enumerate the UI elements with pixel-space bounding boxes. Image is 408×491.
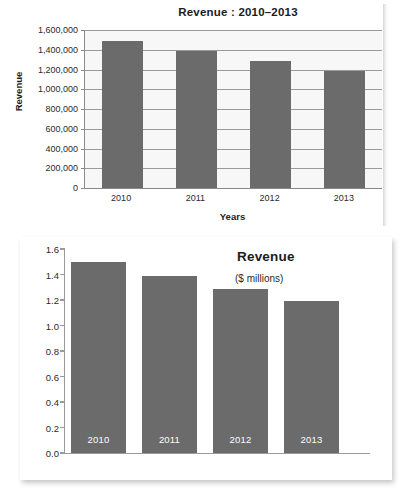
chart-bottom: Revenue ($ millions) 0.00.20.40.60.81.01…	[20, 237, 392, 480]
y-tick-label: 1.0	[46, 320, 59, 331]
y-tick-mark	[81, 129, 85, 130]
y-tick-label: 1.4	[46, 269, 59, 280]
y-tick-label: 1,000,000	[38, 84, 78, 94]
bar	[250, 61, 291, 188]
y-tick-mark	[60, 299, 65, 301]
y-tick-mark	[60, 325, 65, 327]
y-tick-label: 1.2	[46, 295, 59, 306]
y-tick-mark	[81, 70, 85, 71]
y-tick-label: 1,400,000	[38, 45, 78, 55]
bar: 2010	[71, 262, 126, 453]
figure-page: Revenue : 2010–2013 Revenue 0200,000400,…	[0, 0, 408, 491]
y-tick-label: 0.4	[46, 397, 59, 408]
bar: 2013	[284, 301, 339, 453]
y-tick-mark	[81, 168, 85, 169]
page-edge-shadow	[383, 4, 388, 226]
y-tick-mark	[60, 452, 65, 454]
x-tick-label: 2013	[334, 193, 354, 203]
y-tick-mark	[60, 427, 65, 429]
chart-top-title: Revenue : 2010–2013	[138, 6, 338, 18]
y-tick-label: 800,000	[45, 104, 78, 114]
bar: 2011	[142, 276, 197, 453]
bar-value-label: 2011	[159, 434, 180, 445]
gridline	[85, 30, 382, 31]
bar	[102, 41, 143, 188]
y-tick-mark	[81, 149, 85, 150]
y-tick-mark	[81, 30, 85, 31]
chart-top-y-tick-labels: 0200,000400,000600,000800,0001,000,0001,…	[0, 30, 78, 189]
y-tick-label: 0.8	[46, 346, 59, 357]
y-tick-label: 1.6	[46, 244, 59, 255]
x-tick-label: 2011	[186, 193, 205, 203]
y-tick-label: 1,200,000	[38, 65, 78, 75]
y-tick-mark	[81, 89, 85, 90]
y-tick-mark	[60, 376, 65, 378]
y-tick-label: 0.0	[46, 448, 59, 459]
y-tick-mark	[60, 274, 65, 276]
bar	[176, 51, 217, 188]
x-tick-label: 2010	[111, 193, 131, 203]
y-tick-label: 400,000	[45, 144, 78, 154]
y-tick-label: 1,600,000	[38, 25, 78, 35]
y-tick-mark	[81, 109, 85, 110]
y-tick-label: 0.6	[46, 371, 59, 382]
bar	[324, 71, 365, 188]
bar-value-label: 2012	[230, 434, 252, 445]
chart-top-x-axis-title: Years	[84, 211, 381, 222]
bar-value-label: 2013	[301, 434, 323, 445]
x-tick-label: 2012	[260, 193, 280, 203]
y-tick-mark	[81, 188, 85, 189]
y-tick-label: 0	[73, 183, 78, 193]
y-tick-mark	[60, 248, 65, 250]
chart-bottom-plot-area: 2010201120122013	[64, 249, 370, 454]
y-tick-label: 600,000	[45, 124, 78, 134]
y-tick-mark	[60, 350, 65, 352]
y-tick-label: 0.2	[46, 422, 59, 433]
chart-top: Revenue : 2010–2013 Revenue 0200,000400,…	[0, 0, 390, 228]
y-tick-mark	[81, 50, 85, 51]
bar: 2012	[213, 289, 268, 453]
y-tick-label: 200,000	[45, 163, 78, 173]
chart-bottom-y-tick-labels: 0.00.20.40.60.81.01.21.41.6	[20, 249, 59, 454]
chart-top-plot-area	[84, 30, 382, 189]
y-tick-mark	[60, 401, 65, 403]
bar-value-label: 2010	[88, 434, 110, 445]
